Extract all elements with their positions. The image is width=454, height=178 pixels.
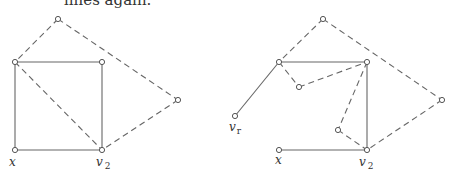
right-dashed-edge xyxy=(279,19,323,62)
right-solid-edge xyxy=(235,62,279,116)
left-node-v2 xyxy=(99,147,104,152)
left-dashed-edge xyxy=(58,19,178,100)
right-dashed-edge xyxy=(338,62,367,130)
right-node-a xyxy=(276,59,281,64)
left-node-tr xyxy=(99,59,104,64)
left-dashed-edge xyxy=(15,19,58,62)
right-dashed-edge xyxy=(367,100,442,150)
right-node-c xyxy=(296,84,301,89)
left-node-far xyxy=(175,97,180,102)
left-node-tl xyxy=(12,59,17,64)
right-node-x xyxy=(276,147,281,152)
right-node-b xyxy=(364,59,369,64)
left-dashed-edge xyxy=(15,62,102,150)
left-node-top xyxy=(55,16,60,21)
right-node-top xyxy=(320,16,325,21)
left-dashed-edge xyxy=(102,100,178,150)
right-x-label: x xyxy=(275,153,282,167)
right-dashed-edge xyxy=(279,62,299,87)
left-x-label: x xyxy=(9,155,16,169)
right-vr-label: vr xyxy=(229,120,242,136)
right-v2-label: v2 xyxy=(359,155,374,171)
right-node-vr xyxy=(232,113,237,118)
right-node-far xyxy=(439,97,444,102)
right-dashed-edge xyxy=(299,62,367,87)
right-dashed-edge xyxy=(323,19,442,100)
right-node-d xyxy=(335,127,340,132)
right-node-v2 xyxy=(364,147,369,152)
left-node-x xyxy=(12,147,17,152)
right-dashed-edge xyxy=(338,130,367,150)
left-v2-label: v2 xyxy=(96,155,111,171)
graph-diagram: x v2 vr x v2 xyxy=(0,0,454,178)
